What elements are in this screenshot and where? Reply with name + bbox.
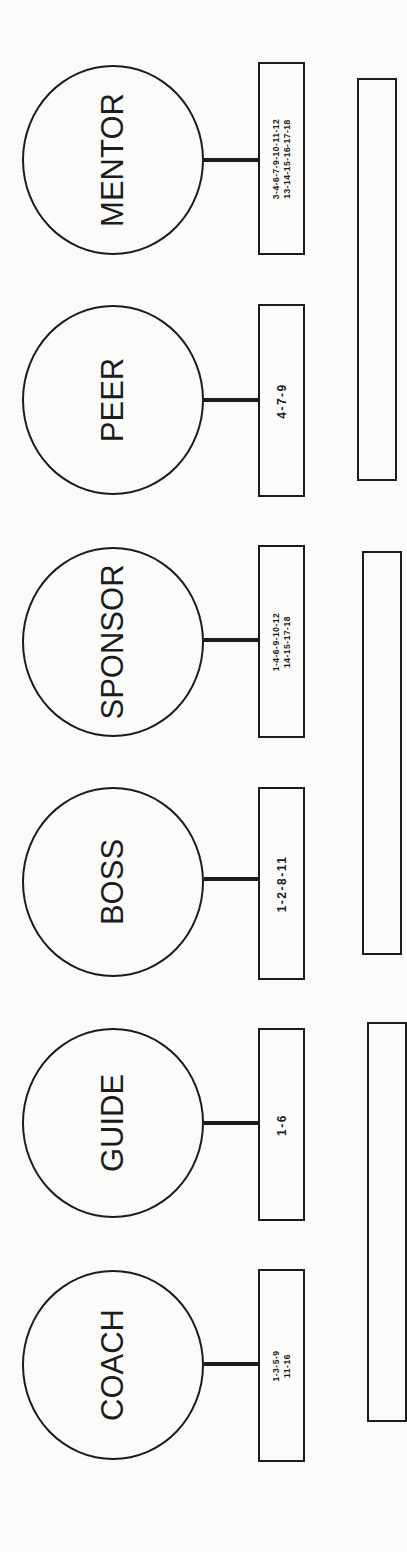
number-line: 1-2-8-11 <box>275 855 289 912</box>
number-list: 1-3-5-9 11-16 <box>271 1350 293 1381</box>
connector-line <box>204 158 258 162</box>
group-box-sponsor-boss <box>362 551 402 955</box>
number-list: 1-2-8-11 <box>275 855 289 912</box>
number-list: 4-7-9 <box>275 383 289 419</box>
role-boss: BOSS 1-2-8-11 <box>0 760 371 1000</box>
role-name: COACH <box>95 1309 131 1421</box>
role-name: MENTOR <box>95 93 131 227</box>
role-name: BOSS <box>95 839 131 925</box>
role-peer: PEER 4-7-9 <box>0 280 371 520</box>
role-sponsor: SPONSOR 1-4-6-9-10-12 14-15-17-18 <box>0 520 371 760</box>
number-line: 1-3-5-9 <box>271 1350 282 1381</box>
role-circle: PEER <box>22 305 204 495</box>
connector-line <box>204 638 258 642</box>
number-line: 11-16 <box>282 1350 293 1381</box>
role-name: GUIDE <box>95 1074 131 1172</box>
role-circle: GUIDE <box>22 1028 204 1218</box>
role-guide: GUIDE 1-6 <box>0 1000 371 1240</box>
role-mentor: MENTOR 3-4-6-7-9-10-11-12 13-14-15-16-17… <box>0 40 371 280</box>
number-box: 1-2-8-11 <box>258 787 305 980</box>
number-line: 1-6 <box>275 1114 289 1136</box>
number-line: 4-7-9 <box>275 383 289 419</box>
role-circle: MENTOR <box>22 65 204 255</box>
group-box-guide-coach <box>367 1022 407 1422</box>
role-circle: BOSS <box>22 787 204 977</box>
connector-line <box>204 1121 258 1125</box>
number-line: 1-4-6-9-10-12 <box>271 612 282 670</box>
role-circle: SPONSOR <box>22 547 204 737</box>
role-name: SPONSOR <box>95 564 131 719</box>
number-list: 3-4-6-7-9-10-11-12 13-14-15-16-17-18 <box>271 118 293 198</box>
number-line: 3-4-6-7-9-10-11-12 <box>271 118 282 198</box>
number-box: 3-4-6-7-9-10-11-12 13-14-15-16-17-18 <box>258 62 305 255</box>
number-box: 4-7-9 <box>258 304 305 497</box>
number-line: 13-14-15-16-17-18 <box>282 118 293 198</box>
number-box: 1-3-5-9 11-16 <box>258 1269 305 1462</box>
number-list: 1-4-6-9-10-12 14-15-17-18 <box>271 612 293 670</box>
number-box: 1-4-6-9-10-12 14-15-17-18 <box>258 545 305 738</box>
role-coach: COACH 1-3-5-9 11-16 <box>0 1240 371 1480</box>
number-line: 14-15-17-18 <box>282 612 293 670</box>
role-circle: COACH <box>22 1270 204 1460</box>
number-box: 1-6 <box>258 1028 305 1221</box>
number-list: 1-6 <box>275 1114 289 1136</box>
role-name: PEER <box>95 358 131 442</box>
connector-line <box>204 877 258 881</box>
group-box-mentor-peer <box>357 78 397 481</box>
connector-line <box>204 1362 258 1366</box>
connector-line <box>204 398 258 402</box>
